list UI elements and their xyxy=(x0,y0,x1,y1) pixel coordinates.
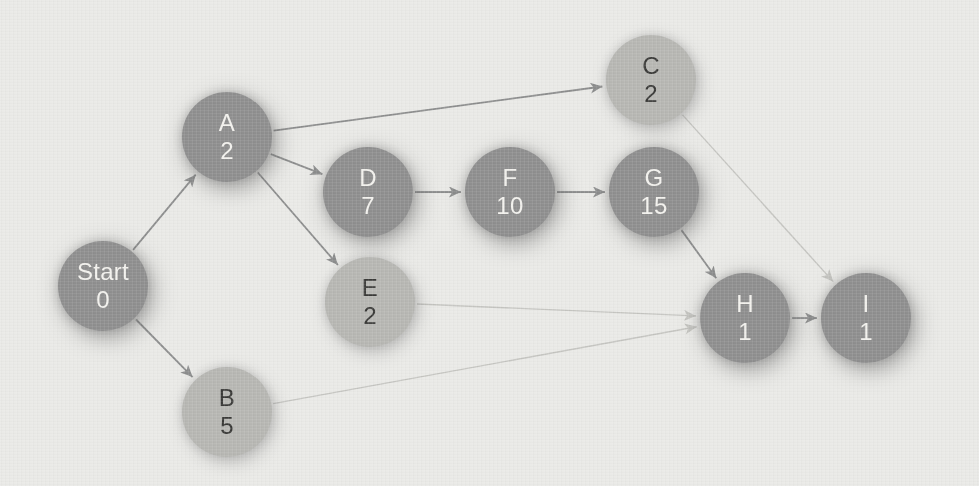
edge-G-H xyxy=(682,230,717,278)
node-I: I1 xyxy=(821,273,911,363)
edge-Start-B xyxy=(136,320,193,378)
node-label: A xyxy=(219,109,235,137)
node-label: H xyxy=(736,290,754,318)
node-C: C2 xyxy=(606,35,696,125)
edge-C-I xyxy=(683,115,834,282)
node-label: Start xyxy=(77,258,129,286)
node-label: D xyxy=(359,164,377,192)
edge-layer xyxy=(0,0,979,486)
node-value: 0 xyxy=(96,286,110,314)
edge-Start-A xyxy=(133,175,196,250)
node-B: B5 xyxy=(182,367,272,457)
network-diagram-canvas: Start0A2B5C2D7E2F10G15H1I1 xyxy=(0,0,979,486)
edge-E-H xyxy=(417,304,696,316)
node-G: G15 xyxy=(609,147,699,237)
node-D: D7 xyxy=(323,147,413,237)
node-value: 15 xyxy=(640,192,667,220)
node-value: 7 xyxy=(361,192,375,220)
node-label: C xyxy=(642,52,660,80)
node-H: H1 xyxy=(700,273,790,363)
node-value: 2 xyxy=(644,80,658,108)
node-Start: Start0 xyxy=(58,241,148,331)
edge-A-D xyxy=(271,154,323,174)
node-value: 2 xyxy=(363,302,377,330)
edge-A-C xyxy=(274,87,603,131)
node-label: E xyxy=(362,274,378,302)
node-label: I xyxy=(863,290,870,318)
node-value: 1 xyxy=(738,318,752,346)
node-value: 2 xyxy=(220,137,234,165)
node-label: B xyxy=(219,384,235,412)
node-value: 5 xyxy=(220,412,234,440)
node-value: 1 xyxy=(859,318,873,346)
node-value: 10 xyxy=(496,192,523,220)
node-F: F10 xyxy=(465,147,555,237)
node-label: G xyxy=(645,164,664,192)
edge-B-H xyxy=(273,327,697,404)
node-E: E2 xyxy=(325,257,415,347)
node-label: F xyxy=(503,164,518,192)
node-A: A2 xyxy=(182,92,272,182)
